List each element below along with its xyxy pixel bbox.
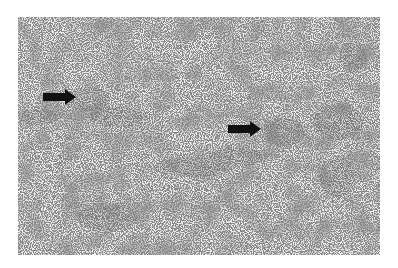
tissue-texture xyxy=(18,17,380,255)
arrow-right-icon xyxy=(228,121,262,137)
arrow-left-icon xyxy=(43,89,77,105)
micrograph-image xyxy=(18,17,380,255)
